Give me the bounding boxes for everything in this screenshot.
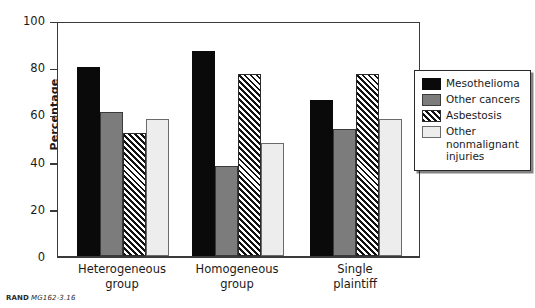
y-axis-tick-label: 0 (38, 250, 45, 264)
y-axis-tick-label: 100 (23, 14, 45, 28)
y-axis-tick-label: 20 (30, 203, 45, 217)
chart-legend: MesotheliomaOther cancersAsbestosisOther… (414, 70, 531, 171)
bar-single-plaintiff-other-nonmalignant-injuries (379, 119, 402, 256)
x-axis-label-line: plaintiff (285, 277, 425, 292)
source-caption: RANDMG162-3.16 (6, 294, 76, 302)
bar-heterogeneous-group-other-cancers (100, 112, 123, 256)
bar-group-homogeneous-group (192, 20, 284, 256)
bar-homogeneous-group-other-cancers (215, 166, 238, 256)
y-axis-tick-label: 60 (30, 108, 45, 122)
y-axis-tick-mark (50, 69, 57, 71)
bar-heterogeneous-group-other-nonmalignant-injuries (146, 119, 169, 256)
bar-heterogeneous-group-mesothelioma (77, 67, 100, 256)
x-axis-label-line: Single (285, 262, 425, 277)
legend-swatch-other-cancers (422, 94, 441, 106)
bar-group-single-plaintiff (310, 20, 402, 256)
legend-item-asbestosis[interactable]: Asbestosis (422, 109, 524, 122)
bar-single-plaintiff-asbestosis (356, 74, 379, 256)
x-axis-label-single-plaintiff: Singleplaintiff (285, 262, 425, 292)
bar-group-heterogeneous-group (77, 20, 169, 256)
bar-single-plaintiff-other-cancers (333, 129, 356, 256)
legend-label-mesothelioma: Mesothelioma (446, 77, 520, 90)
source-caption-id: MG162-3.16 (29, 294, 75, 302)
legend-item-other-cancers[interactable]: Other cancers (422, 93, 524, 106)
legend-label-asbestosis: Asbestosis (446, 109, 502, 122)
legend-item-mesothelioma[interactable]: Mesothelioma (422, 77, 524, 90)
source-caption-mark: RAND (6, 294, 29, 302)
y-axis-tick-label: 80 (30, 61, 45, 75)
legend-item-other-nonmalignant-injuries[interactable]: Other nonmalignant injuries (422, 125, 524, 163)
y-axis-tick-mark (50, 22, 57, 24)
legend-swatch-asbestosis (422, 110, 441, 122)
plot-area (57, 22, 420, 258)
bar-homogeneous-group-other-nonmalignant-injuries (261, 143, 284, 256)
legend-swatch-other-nonmalignant-injuries (422, 126, 441, 138)
y-axis-tick-label: 40 (30, 156, 45, 170)
bar-single-plaintiff-mesothelioma (310, 100, 333, 256)
y-axis-tick-mark (50, 210, 57, 212)
bar-homogeneous-group-asbestosis (238, 74, 261, 256)
bar-homogeneous-group-mesothelioma (192, 51, 215, 256)
bar-heterogeneous-group-asbestosis (123, 133, 146, 256)
legend-label-other-cancers: Other cancers (446, 93, 520, 106)
bar-chart-figure: grouped by plaintiff type Percentage 020… (0, 0, 535, 308)
legend-swatch-mesothelioma (422, 78, 441, 90)
legend-label-other-nonmalignant-injuries: Other nonmalignant injuries (446, 125, 519, 163)
y-axis-tick-mark (50, 116, 57, 118)
y-axis-tick-mark (50, 163, 57, 165)
